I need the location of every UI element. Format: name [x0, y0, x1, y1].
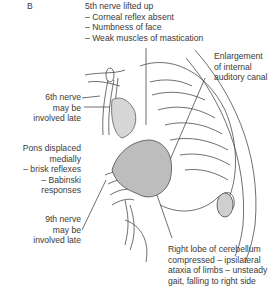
- cerebellum-line: ataxia of limbs – unsteady: [168, 265, 267, 276]
- sixth-nerve-line: may be: [33, 103, 81, 114]
- ninth-nerve-line: involved late: [33, 235, 81, 246]
- pons-line: medially: [23, 154, 81, 165]
- auditory-canal-line: Enlargement: [214, 51, 268, 62]
- cerebellum-line: compressed – ipsilateral: [168, 255, 267, 266]
- ninth-nerve-line: may be: [33, 225, 81, 236]
- pons-line: – brisk reflexes: [23, 164, 81, 175]
- label-ninth-nerve: 9th nerve may be involved late: [33, 214, 81, 246]
- label-auditory-canal: Enlargement of internal auditory canal: [214, 51, 268, 83]
- pons-line: – Babinski: [23, 175, 81, 186]
- fifth-nerve-item: – Numbness of face: [85, 22, 203, 33]
- pons-line: responses: [23, 185, 81, 196]
- label-sixth-nerve: 6th nerve may be involved late: [33, 92, 81, 124]
- label-cerebellum: Right lobe of cerebellum compressed – ip…: [168, 244, 267, 286]
- fifth-nerve-title: 5th nerve lifted up: [85, 1, 203, 12]
- sixth-nerve-line: involved late: [33, 113, 81, 124]
- pons-line: Pons displaced: [23, 143, 81, 154]
- cerebellum-line: gait, falling to right side: [168, 276, 267, 287]
- cerebellum-line: Right lobe of cerebellum: [168, 244, 267, 255]
- ninth-nerve-line: 9th nerve: [33, 214, 81, 225]
- auditory-canal-line: of internal: [214, 62, 268, 73]
- sixth-nerve-line: 6th nerve: [33, 92, 81, 103]
- fifth-nerve-item: – Corneal reflex absent: [85, 12, 203, 23]
- label-fifth-nerve: 5th nerve lifted up – Corneal reflex abs…: [85, 1, 203, 43]
- fifth-nerve-item: – Weak muscles of mastication: [85, 33, 203, 44]
- label-pons: Pons displaced medially – brisk reflexes…: [23, 143, 81, 196]
- auditory-canal-line: auditory canal: [214, 72, 268, 83]
- panel-label: B: [27, 1, 33, 12]
